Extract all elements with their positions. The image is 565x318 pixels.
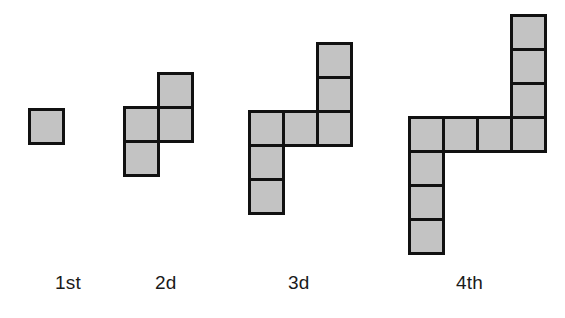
figure-1-label: 1st xyxy=(55,272,81,294)
square-tile xyxy=(510,82,547,119)
square-tile xyxy=(157,72,194,109)
square-tile xyxy=(510,14,547,51)
square-tile xyxy=(408,184,445,221)
square-tile xyxy=(28,108,65,145)
square-tile xyxy=(282,110,319,147)
square-tile xyxy=(408,116,445,153)
square-tile xyxy=(248,110,285,147)
square-tile xyxy=(510,116,547,153)
square-tile xyxy=(123,106,160,143)
square-tile xyxy=(248,178,285,215)
square-tile xyxy=(157,106,194,143)
pattern-diagram-canvas: 1st2d3d4th xyxy=(0,0,565,318)
square-tile xyxy=(248,144,285,181)
square-tile xyxy=(408,150,445,187)
square-tile xyxy=(316,110,353,147)
square-tile xyxy=(316,76,353,113)
square-tile xyxy=(442,116,479,153)
square-tile xyxy=(408,218,445,255)
figure-3-label: 3d xyxy=(288,272,310,294)
square-tile xyxy=(123,140,160,177)
figure-4-label: 4th xyxy=(456,272,483,294)
square-tile xyxy=(316,42,353,79)
square-tile xyxy=(476,116,513,153)
square-tile xyxy=(510,48,547,85)
figure-2-label: 2d xyxy=(155,272,177,294)
